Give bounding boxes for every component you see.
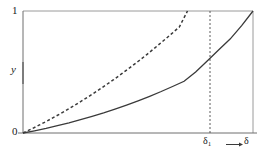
x-tick-label-delta-one: δ1 (203, 136, 211, 148)
x-axis-arrow-icon (226, 141, 244, 148)
y-axis-max-label: 1 (12, 5, 18, 16)
x-axis-label: δ (244, 136, 249, 146)
plot-frame (18, 11, 257, 133)
plot-canvas (0, 0, 268, 160)
origin-label: 0 (12, 126, 18, 137)
figure-container: 1 0 y δ1 δ (0, 0, 268, 160)
delta-one-subscript: 1 (208, 140, 212, 148)
series-dashed-curve (23, 11, 187, 133)
y-axis-label: y (11, 64, 16, 75)
